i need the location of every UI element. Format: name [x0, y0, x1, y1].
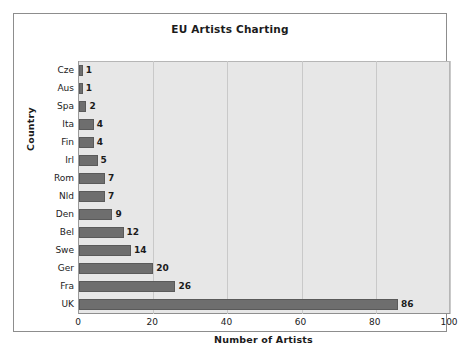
- x-tick-label: 100: [440, 318, 457, 327]
- bar: [79, 281, 175, 292]
- gridline-x-20: [153, 61, 154, 314]
- plot-border-top: [79, 61, 450, 62]
- bar-value-label: 14: [134, 246, 147, 255]
- x-axis-tick-labels: 020406080100: [78, 318, 449, 332]
- gridline-x-60: [302, 61, 303, 314]
- y-tick-label: Rom: [18, 174, 78, 183]
- gridline-x-80: [376, 61, 377, 314]
- y-tick-label: Cze: [18, 66, 78, 75]
- chart-figure-frame: EU Artists Charting Country CzeAusSpaIta…: [13, 13, 447, 332]
- x-tick-label: 80: [369, 318, 380, 327]
- bar-value-label: 26: [178, 282, 191, 291]
- bar: [79, 299, 398, 310]
- x-tick-label: 60: [295, 318, 306, 327]
- chart-title: EU Artists Charting: [14, 23, 446, 35]
- y-tick-label: Spa: [18, 102, 78, 111]
- bar: [79, 173, 105, 184]
- bar: [79, 119, 94, 130]
- bar-value-label: 86: [401, 300, 414, 309]
- x-tick-label: 20: [146, 318, 157, 327]
- bar: [79, 245, 131, 256]
- bar: [79, 137, 94, 148]
- y-tick-label: Bel: [18, 228, 78, 237]
- bar: [79, 227, 124, 238]
- y-tick-label: Aus: [18, 84, 78, 93]
- y-tick-label: UK: [18, 300, 78, 309]
- x-axis-line: [79, 313, 450, 314]
- bar: [79, 65, 83, 76]
- bar-value-label: 7: [108, 174, 114, 183]
- y-tick-label: Den: [18, 210, 78, 219]
- bar-value-label: 1: [86, 66, 92, 75]
- plot-area: 1124457791214202686: [78, 61, 450, 314]
- bar: [79, 83, 83, 94]
- y-axis-tick-labels: CzeAusSpaItaFinIrlRomNldDenBelSweGerFraU…: [14, 61, 78, 314]
- y-tick-label: Fin: [18, 138, 78, 147]
- gridline-x-40: [227, 61, 228, 314]
- bar-value-label: 12: [127, 228, 140, 237]
- bar: [79, 191, 105, 202]
- bar-value-label: 4: [97, 138, 103, 147]
- bar-value-label: 5: [101, 156, 107, 165]
- y-tick-label: Nld: [18, 192, 78, 201]
- bar: [79, 209, 112, 220]
- bar-value-label: 7: [108, 192, 114, 201]
- x-tick-label: 40: [221, 318, 232, 327]
- bar-value-label: 9: [115, 210, 121, 219]
- y-tick-label: Ita: [18, 120, 78, 129]
- bar: [79, 101, 86, 112]
- bar-value-label: 2: [89, 102, 95, 111]
- y-tick-label: Ger: [18, 264, 78, 273]
- x-tick-label: 0: [75, 318, 81, 327]
- bar-value-label: 1: [86, 84, 92, 93]
- y-tick-label: Swe: [18, 246, 78, 255]
- bar: [79, 155, 98, 166]
- x-axis-title: Number of Artists: [78, 334, 449, 345]
- gridline-x-100: [450, 61, 451, 314]
- y-tick-label: Fra: [18, 282, 78, 291]
- bar-value-label: 20: [156, 264, 169, 273]
- bar: [79, 263, 153, 274]
- y-tick-label: Irl: [18, 156, 78, 165]
- bar-value-label: 4: [97, 120, 103, 129]
